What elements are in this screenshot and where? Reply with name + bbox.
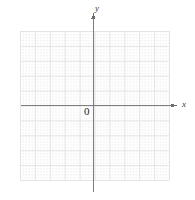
coordinate-plane-svg: [0, 0, 195, 200]
coordinate-grid-figure: y x 0: [0, 0, 195, 200]
origin-label: 0: [84, 106, 90, 117]
x-axis-label: x: [182, 100, 186, 109]
y-axis-label: y: [95, 4, 99, 13]
